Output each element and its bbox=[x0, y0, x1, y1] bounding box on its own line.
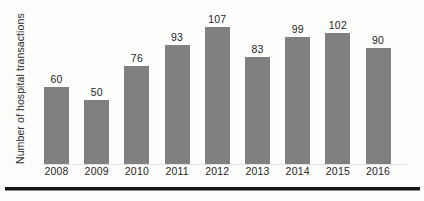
bar-rect bbox=[205, 27, 230, 164]
footer-rule-shadow bbox=[5, 190, 420, 191]
y-axis-title: Number of hospital transactions bbox=[12, 14, 28, 164]
bar-chart: Number of hospital transactions 60507693… bbox=[0, 0, 424, 201]
bar-value-label: 99 bbox=[276, 23, 319, 35]
bar-value-label: 93 bbox=[156, 31, 199, 43]
bar-rect bbox=[84, 100, 109, 164]
bar-2008: 60 bbox=[44, 6, 69, 164]
x-axis-tick-labels: 200820092010201120122013201420152016 bbox=[41, 165, 407, 181]
bar-rect bbox=[124, 66, 149, 164]
x-tick-label-2008: 2008 bbox=[35, 165, 78, 177]
bar-2010: 76 bbox=[124, 6, 149, 164]
bar-value-label: 90 bbox=[357, 34, 400, 46]
bar-value-label: 102 bbox=[316, 19, 359, 31]
x-tick-label-2011: 2011 bbox=[156, 165, 199, 177]
bar-value-label: 50 bbox=[75, 86, 118, 98]
bar-rect bbox=[165, 45, 190, 164]
plot-area: 60507693107839910290 bbox=[41, 6, 407, 164]
x-tick-label-2015: 2015 bbox=[316, 165, 359, 177]
x-tick-label-2016: 2016 bbox=[357, 165, 400, 177]
bar-2014: 99 bbox=[285, 6, 310, 164]
x-tick-label-2014: 2014 bbox=[276, 165, 319, 177]
bar-2015: 102 bbox=[325, 6, 350, 164]
bar-rect bbox=[366, 48, 391, 164]
x-tick-label-2012: 2012 bbox=[196, 165, 239, 177]
bar-value-label: 83 bbox=[236, 43, 279, 55]
bar-value-label: 76 bbox=[115, 52, 158, 64]
bar-2011: 93 bbox=[165, 6, 190, 164]
x-tick-label-2010: 2010 bbox=[115, 165, 158, 177]
bar-2009: 50 bbox=[84, 6, 109, 164]
bar-value-label: 60 bbox=[35, 73, 78, 85]
bar-rect bbox=[325, 33, 350, 164]
bar-2016: 90 bbox=[366, 6, 391, 164]
bar-2012: 107 bbox=[205, 6, 230, 164]
bar-rect bbox=[245, 57, 270, 164]
bar-value-label: 107 bbox=[196, 13, 239, 25]
bar-rect bbox=[44, 87, 69, 164]
x-tick-label-2013: 2013 bbox=[236, 165, 279, 177]
x-tick-label-2009: 2009 bbox=[75, 165, 118, 177]
bar-2013: 83 bbox=[245, 6, 270, 164]
bar-rect bbox=[285, 37, 310, 164]
